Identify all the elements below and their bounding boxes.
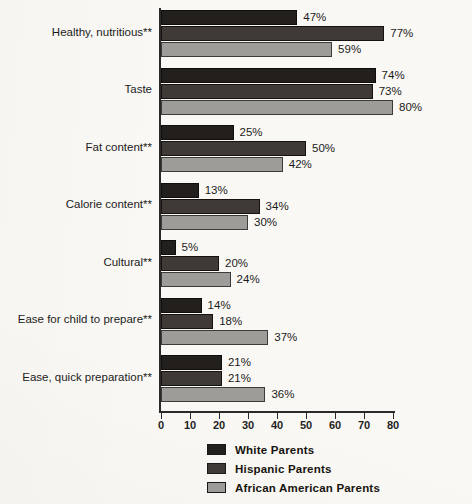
bar-value-label: 20% xyxy=(225,256,248,271)
bar-value-label: 30% xyxy=(254,215,277,230)
bar-value-label: 36% xyxy=(271,387,294,402)
bar-value-label: 42% xyxy=(289,157,312,172)
bar-value-label: 21% xyxy=(228,355,251,370)
chart-legend: White ParentsHispanic ParentsAfrican Ame… xyxy=(207,441,467,498)
x-tick-label: 60 xyxy=(329,419,341,431)
legend-swatch-icon xyxy=(207,444,226,455)
x-tick-label: 0 xyxy=(158,419,164,431)
bar-value-label: 80% xyxy=(399,100,422,115)
bar-1-6 xyxy=(161,371,222,386)
bar-1-2 xyxy=(161,141,306,156)
bar-value-label: 25% xyxy=(240,125,263,140)
bar-1-3 xyxy=(161,199,260,214)
category-label: Ease, quick preparation** xyxy=(0,371,152,383)
bar-0-0 xyxy=(161,10,297,25)
category-label: Calorie content** xyxy=(0,198,152,210)
bar-1-5 xyxy=(161,314,213,329)
x-tick-label: 70 xyxy=(358,419,370,431)
bar-value-label: 14% xyxy=(208,298,231,313)
bar-value-label: 13% xyxy=(205,183,228,198)
bar-value-label: 59% xyxy=(338,42,361,57)
bar-1-1 xyxy=(161,84,373,99)
plot-area: 47%77%59%74%73%80%25%50%42%13%34%30%5%20… xyxy=(161,8,393,412)
legend-item-2: African American Parents xyxy=(207,479,467,496)
legend-label: White Parents xyxy=(235,444,314,456)
bar-value-label: 47% xyxy=(303,10,326,25)
bar-0-6 xyxy=(161,355,222,370)
legend-swatch-icon xyxy=(207,463,226,474)
bar-0-1 xyxy=(161,68,376,83)
legend-item-0: White Parents xyxy=(207,441,467,458)
bar-value-label: 50% xyxy=(312,141,335,156)
x-tick-label: 30 xyxy=(242,419,254,431)
bar-2-0 xyxy=(161,42,332,57)
bar-2-5 xyxy=(161,330,268,345)
category-label: Healthy, nutritious** xyxy=(0,26,152,38)
bar-value-label: 18% xyxy=(219,314,242,329)
category-label: Cultural** xyxy=(0,256,152,268)
bar-2-2 xyxy=(161,157,283,172)
bar-value-label: 37% xyxy=(274,330,297,345)
bar-0-4 xyxy=(161,240,176,255)
legend-item-1: Hispanic Parents xyxy=(207,460,467,477)
legend-swatch-icon xyxy=(207,482,226,493)
x-tick-label: 40 xyxy=(271,419,283,431)
bar-2-1 xyxy=(161,100,393,115)
category-label: Taste xyxy=(0,83,152,95)
bar-value-label: 77% xyxy=(390,26,413,41)
bar-0-2 xyxy=(161,125,234,140)
x-tick-label: 80 xyxy=(387,419,399,431)
legend-label: Hispanic Parents xyxy=(235,463,332,475)
bar-1-0 xyxy=(161,26,384,41)
bar-value-label: 24% xyxy=(237,272,260,287)
x-tick-label: 20 xyxy=(213,419,225,431)
bar-2-4 xyxy=(161,272,231,287)
bar-2-3 xyxy=(161,215,248,230)
bar-0-3 xyxy=(161,183,199,198)
bar-0-5 xyxy=(161,298,202,313)
category-label: Fat content** xyxy=(0,141,152,153)
bar-2-6 xyxy=(161,387,265,402)
bar-1-4 xyxy=(161,256,219,271)
bar-value-label: 74% xyxy=(382,68,405,83)
x-tick-label: 50 xyxy=(300,419,312,431)
bar-value-label: 73% xyxy=(379,84,402,99)
bar-value-label: 5% xyxy=(182,240,199,255)
bar-value-label: 21% xyxy=(228,371,251,386)
category-label: Ease for child to prepare** xyxy=(0,313,152,325)
x-tick-label: 10 xyxy=(184,419,196,431)
legend-label: African American Parents xyxy=(235,482,380,494)
bar-value-label: 34% xyxy=(266,199,289,214)
bar-chart-figure: Healthy, nutritious**TasteFat content**C… xyxy=(0,0,472,504)
